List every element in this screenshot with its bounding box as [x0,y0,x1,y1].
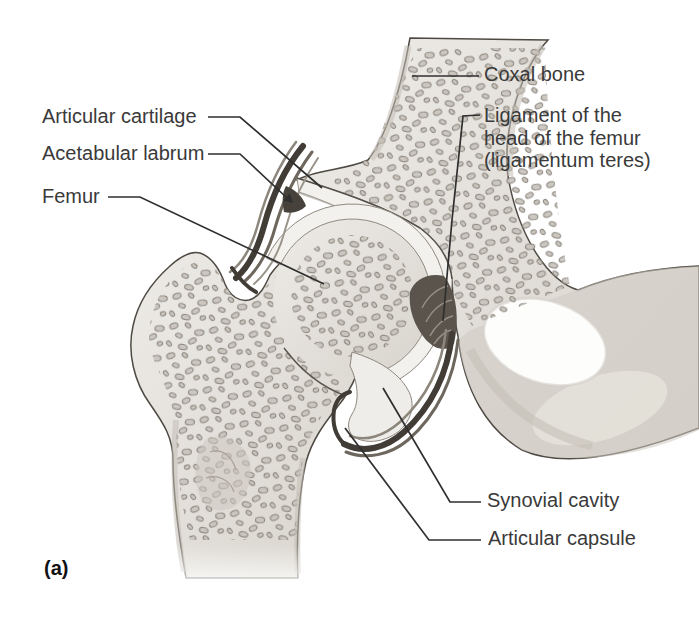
label-synovial-cavity: Synovial cavity [487,488,619,512]
label-ligament-head: Ligament of the head of the femur (ligam… [484,104,662,172]
figure-hip-joint: Articular cartilage Acetabular labrum Fe… [0,0,699,625]
leader-line-articular-capsule [345,428,481,540]
label-articular-capsule: Articular capsule [488,526,636,550]
label-articular-cartilage: Articular cartilage [42,104,197,128]
panel-label: (a) [44,557,68,580]
label-coxal-bone: Coxal bone [484,62,585,86]
label-femur: Femur [42,184,100,208]
shaft-bottom-fade [155,545,325,593]
label-acetabular-labrum: Acetabular labrum [42,141,204,165]
femoral-head-spongy-texture [291,235,413,357]
